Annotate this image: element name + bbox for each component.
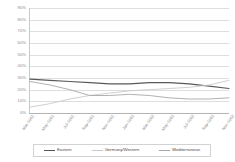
x-axis-tick-label: Jul-1962 [183,114,196,130]
x-axis-tick-label: Mar-1962 [142,114,156,131]
y-axis-tick-label: 70% [18,29,26,33]
legend-item[interactable]: Eastern [44,148,72,152]
x-axis-tick-label: Sep-1961 [82,114,96,131]
series-layer [30,8,229,113]
x-axis-tick-label: Sep-1962 [202,114,216,131]
y-axis-tick-label: 40% [18,64,26,68]
y-axis-tick-label: 10% [18,99,26,103]
y-axis-tick-label: 30% [18,76,26,80]
chart-legend: EasternGermany/WesternMediterranean [33,144,211,157]
y-axis-tick-label: 50% [18,53,26,57]
y-axis-tick-label: 0% [20,111,26,115]
legend-line-swatch [92,150,103,151]
legend-label: Mediterranean [172,148,200,152]
plot-wrapper: 90%80%70%60%50%40%30%20%10%0% Mar-1961Ma… [0,0,235,140]
y-axis-tick-label: 90% [18,6,26,10]
x-axis-tick-label: Jul-1961 [63,114,76,130]
plot-area [29,8,229,113]
legend-item[interactable]: Germany/Western [92,148,140,152]
x-axis-tick-label: May-1962 [161,114,175,132]
y-axis-tick-label: 20% [18,88,26,92]
x-axis-tick-label: Jan-1962 [122,114,135,131]
x-axis-tick-label: May-1961 [41,114,55,132]
x-axis-tick-label: Nov-1962 [222,114,235,131]
legend-line-swatch [44,150,55,151]
x-axis-tick-label: Nov-1961 [102,114,116,131]
y-axis-tick-label: 80% [18,18,26,22]
legend-label: Germany/Western [105,148,140,152]
y-axis-tick-label: 60% [18,41,26,45]
y-axis: 90%80%70%60%50%40%30%20%10%0% [0,0,28,118]
x-axis: Mar-1961May-1961Jul-1961Sep-1961Nov-1961… [29,114,229,140]
legend-label: Eastern [57,148,72,152]
legend-line-swatch [159,150,170,151]
line-chart: 90%80%70%60%50%40%30%20%10%0% Mar-1961Ma… [0,0,235,162]
legend-item[interactable]: Mediterranean [159,148,200,152]
